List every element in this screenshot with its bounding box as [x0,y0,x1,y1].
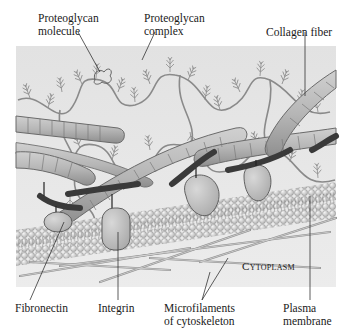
integrin-1 [44,212,72,232]
label-proteoglycan-molecule: Proteoglycan molecule [38,12,99,38]
label-cytoplasm: Cytoplasm [242,260,295,273]
label-proteoglycan-complex: Proteoglycan complex [144,12,205,38]
ecm-diagram: Proteoglycan molecule Proteoglycan compl… [0,0,356,333]
label-microfilaments: Microfilaments of cytoskeleton [164,302,235,328]
integrin-2 [102,208,130,250]
ecm-illustration [0,0,356,333]
label-collagen-fiber: Collagen fiber [266,26,332,39]
label-integrin: Integrin [98,302,134,315]
label-fibronectin: Fibronectin [15,302,68,315]
label-plasma-membrane: Plasma membrane [283,302,332,328]
